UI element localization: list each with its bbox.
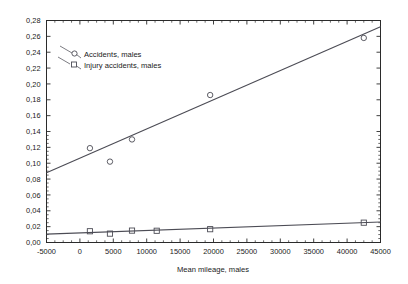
y-tick-label: 0,02	[26, 222, 40, 231]
y-tick-label: 0,14	[26, 127, 40, 136]
y-tick-label: 0,04	[26, 206, 40, 215]
x-tick-label: 15000	[170, 247, 191, 256]
x-tick-label: 0	[78, 247, 82, 256]
y-tick-label: 0,00	[26, 238, 40, 247]
scatter-plot-svg: -500005000100001500020000250003000035000…	[0, 0, 408, 284]
x-tick-label: 30000	[270, 247, 291, 256]
y-tick-label: 0,24	[26, 48, 40, 57]
y-tick-label: 0,06	[26, 191, 40, 200]
y-tick-label: 0,08	[26, 175, 40, 184]
y-tick-label: 0,22	[26, 64, 40, 73]
x-axis-title: Mean mileage, males	[177, 265, 249, 274]
x-tick-label: 35000	[303, 247, 324, 256]
chart-figure: -500005000100001500020000250003000035000…	[0, 0, 408, 284]
x-tick-label: 45000	[370, 247, 391, 256]
y-tick-label: 0,12	[26, 143, 40, 152]
x-tick-label: 40000	[337, 247, 358, 256]
legend-label-accidents: Accidents, males	[84, 50, 142, 59]
x-tick-label: 5000	[105, 247, 121, 256]
y-tick-label: 0,16	[26, 111, 40, 120]
x-tick-label: 20000	[203, 247, 224, 256]
x-tick-label: 25000	[237, 247, 258, 256]
x-tick-label: -5000	[37, 247, 56, 256]
y-tick-label: 0,10	[26, 159, 40, 168]
y-tick-label: 0,20	[26, 80, 40, 89]
legend-label-injury-accidents: Injury accidents, males	[84, 61, 161, 70]
y-tick-label: 0,18	[26, 95, 40, 104]
y-tick-label: 0,28	[26, 16, 40, 25]
y-tick-label: 0,26	[26, 32, 40, 41]
x-tick-label: 10000	[136, 247, 157, 256]
y-tick-labels-group: 0,000,020,040,060,080,100,120,140,160,18…	[26, 16, 40, 247]
